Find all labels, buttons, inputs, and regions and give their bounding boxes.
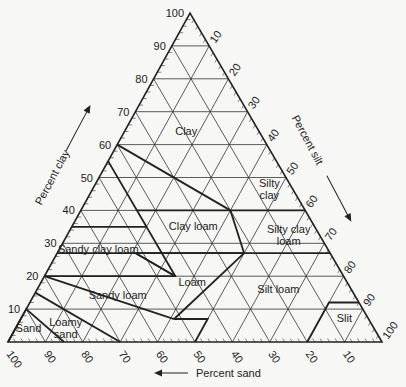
tick-label-sand: 90: [42, 348, 59, 365]
class-label-silty-clay: Silty: [259, 177, 280, 189]
tick-label-silt: 90: [361, 291, 378, 308]
class-label-loamy-sand: sand: [54, 328, 78, 340]
soil-texture-triangle-figure: 1020304050607080901001020304050607080901…: [0, 0, 406, 387]
tick-label-clay: 90: [154, 40, 166, 52]
tick-label-sand: 70: [117, 348, 134, 365]
tick-marks: [12, 20, 379, 342]
class-label-clay: Clay: [175, 125, 198, 137]
arrow-head-icon: [344, 213, 354, 223]
tick-label-clay: 70: [117, 106, 129, 118]
tick-label-clay: 30: [44, 237, 56, 249]
axis-label-clay: Percent clay: [33, 102, 96, 207]
tick-label-sand: 40: [229, 348, 246, 365]
arrow-head-icon: [84, 103, 94, 113]
tick-label-silt: 70: [322, 226, 339, 243]
tick-label-clay: 80: [135, 73, 147, 85]
class-label-silty-clay: clay: [260, 189, 280, 201]
tick-label-clay: 10: [8, 303, 20, 315]
tick-label-sand: 10: [341, 348, 358, 365]
tick-label-clay: 20: [26, 270, 38, 282]
tick-label-silt: 30: [245, 94, 262, 111]
svg-text:Percent silt: Percent silt: [290, 113, 326, 167]
grid-lines: [26, 46, 363, 342]
class-label-sandy-loam: Sandy loam: [89, 289, 147, 301]
tick-label-sand: 100: [4, 348, 24, 370]
tick-label-silt: 100: [380, 319, 400, 341]
axis-label-sand: Percent sand: [154, 367, 261, 379]
tick-label-clay: 40: [63, 204, 75, 216]
tick-label-sand: 50: [191, 348, 208, 365]
tick-label-sand: 60: [154, 348, 171, 365]
arrow-up-icon: [66, 110, 88, 151]
arrow-head-icon: [154, 370, 162, 377]
class-label-silty-clay-loam: Silty clay: [267, 223, 311, 235]
grid-line-silt: [195, 178, 286, 343]
tick-label-silt: 60: [303, 193, 320, 210]
tick-label-clay: 60: [99, 139, 111, 151]
axis-label-silt: Percent silt: [290, 113, 357, 225]
class-label-silty-clay-loam: loam: [277, 235, 301, 247]
tick-label-clay: 100: [166, 7, 184, 19]
tick-label-sand: 80: [79, 348, 96, 365]
class-label-loamy-sand: Loamy: [49, 316, 83, 328]
class-label-clay-loam: Clay loam: [169, 220, 218, 232]
tick-label-clay: 50: [81, 172, 93, 184]
tick-label-silt: 80: [341, 258, 358, 275]
tick-label-sand: 20: [304, 348, 321, 365]
class-boundary: [136, 253, 244, 276]
class-label-silt-loam: Silt loam: [257, 283, 299, 295]
tick-label-silt: 50: [284, 160, 301, 177]
class-label-slit: Slit: [337, 312, 352, 324]
tick-label-silt: 40: [265, 127, 282, 144]
svg-text:Percent sand: Percent sand: [196, 367, 261, 379]
ternary-diagram: 1020304050607080901001020304050607080901…: [0, 0, 406, 387]
class-label-loam: Loam: [179, 276, 207, 288]
svg-text:Percent clay: Percent clay: [33, 147, 72, 207]
tick-label-silt: 10: [207, 28, 224, 45]
class-label-sandy-clay-loam: Sandy clay loam: [58, 243, 139, 255]
arrow-down-icon: [327, 176, 349, 217]
tick-label-sand: 30: [266, 348, 283, 365]
class-label-sand: Sand: [16, 322, 42, 334]
tick-label-silt: 20: [226, 61, 243, 78]
